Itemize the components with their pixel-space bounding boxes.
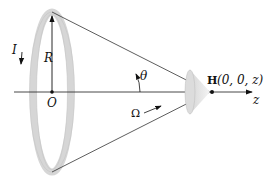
radius-label: R bbox=[43, 51, 53, 65]
H-coords-label: (0, 0, z) bbox=[217, 73, 264, 87]
omega-pointer bbox=[144, 106, 161, 113]
current-label: I bbox=[11, 43, 17, 57]
theta-label: θ bbox=[140, 69, 148, 83]
field-point-H bbox=[210, 90, 214, 94]
z-axis-label: z bbox=[252, 93, 260, 107]
current-direction-arrow bbox=[21, 52, 22, 64]
origin-point bbox=[50, 90, 54, 94]
solid-angle-diagram: I R O θ Ω H (0, 0, z) z bbox=[0, 0, 272, 183]
H-label: H bbox=[207, 74, 217, 87]
omega-label: Ω bbox=[131, 107, 140, 120]
origin-label: O bbox=[47, 96, 57, 110]
